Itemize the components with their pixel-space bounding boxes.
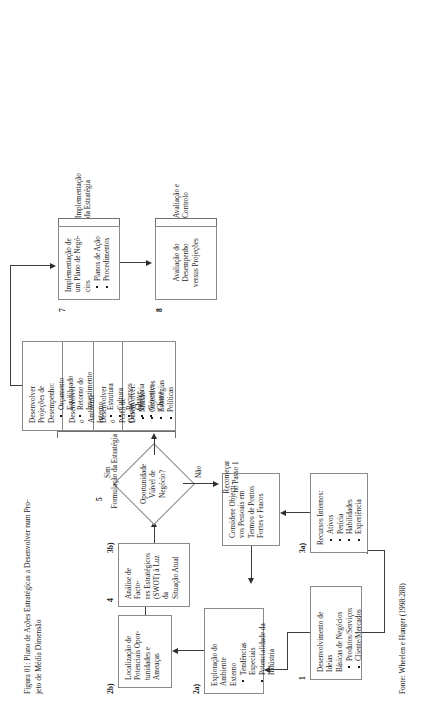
node-2a-bullet-2: Potencialidade da Indústria	[258, 615, 277, 675]
edge-6-to-7-v0	[10, 385, 22, 386]
arrowhead-7-to-8	[146, 260, 152, 266]
step-number-7: 7	[58, 308, 67, 312]
node-2a-title: Exploração do Ambiente Externo	[210, 615, 238, 686]
arrowhead-3b-to-4	[248, 578, 254, 584]
edge-4-to-5	[154, 527, 155, 543]
node-6-panel-4-title: Desenvolver Projeções de Desempenho:	[28, 381, 56, 423]
node-5-label: Oportunidade Viável de Negócio?	[139, 449, 167, 519]
edge-5-to-restart-v	[183, 483, 213, 484]
node-2a-bullet-1: Tendências Especiais	[239, 615, 258, 675]
node-1-bullet-1: Produtos/Serviços	[345, 593, 354, 661]
node-6-panel-1-bullet-4: Políticas	[166, 348, 175, 412]
node-4-title: Análise de Facto- res Estratégicos (SWOT…	[124, 550, 180, 599]
node-6-panel-3-bullet-1: Estrutura	[106, 383, 115, 410]
node-restart-step1: Recomeçar no Passo 1	[222, 446, 241, 508]
bracket-implementacao	[58, 218, 120, 226]
figure-source: Fonte: Wheelen e Hunger (1998:288)	[398, 583, 407, 694]
node-1-business-ideas: Desenvolvimento de Ideias Básicas de Neg…	[310, 586, 362, 680]
node-3a-bullet-4: Experiência	[354, 480, 363, 534]
node-8-performance-evaluation: Avaliação do Desempenho versus Projeções	[155, 226, 217, 300]
node-6-panel-4-bullet-1: Orçamento Equilibrado	[57, 372, 76, 410]
edge-n1-to-3a-v0	[362, 632, 384, 633]
node-3a-bullets: Ativos Perícia Habilidades Experiência	[326, 480, 363, 545]
edge-3b-to-4	[251, 546, 252, 578]
node-3a-internal-resources: Recursos Internos: Ativos Perícia Habili…	[310, 473, 368, 553]
node-8-title: Avaliação do Desempenho versus Projeções	[172, 233, 200, 292]
edge-7-to-8-v	[120, 262, 146, 263]
step-number-3b: 3b)	[106, 542, 115, 553]
node-3a-title: Recursos Internos:	[316, 480, 325, 545]
step-number-8: 8	[155, 308, 164, 312]
step-number-2b: 2b)	[106, 683, 115, 694]
edge-6-to-7-h	[10, 266, 11, 386]
arrowhead-3a-to-3b	[280, 510, 286, 516]
edge-2a-to-2b	[178, 650, 204, 651]
bracket-avaliacao	[155, 218, 217, 226]
edge-n1-to-2a-h	[287, 632, 288, 670]
node-2a-bullets: Tendências Especiais Potencialidade da I…	[239, 615, 276, 686]
node-6-panel-2-bullet-2: Gerentes Chave	[147, 384, 166, 410]
step-number-2a: 2a)	[192, 684, 201, 694]
bracket-label-formulacao: Formulação da Estratégia	[110, 434, 119, 516]
node-7-bullet-2: Procedimentos	[102, 233, 111, 281]
node-7-bullets: Planos de Ação Procedimentos	[93, 233, 112, 292]
edge-3a-to-3b	[286, 512, 310, 513]
node-3a-bullet-1: Ativos	[326, 480, 335, 534]
node-6-panel-3-bullet-3: Recursos Chave	[125, 383, 144, 410]
node-2a-external-environment: Exploração do Ambiente Externo Tendência…	[204, 608, 264, 694]
bracket-label-implementacao: Implementação da Estratégia	[74, 144, 92, 218]
node-6-panel-3-bullets: Estrutura Cultura Recursos Chave	[106, 383, 143, 423]
arrowhead-2a-to-2b	[172, 648, 178, 654]
step-number-4: 4	[106, 598, 115, 602]
figure-caption: Figura 01: Plano de Ações Estratégicas a…	[22, 449, 45, 694]
diagram-area: Figura 01: Plano de Ações Estratégicas a…	[0, 0, 424, 716]
node-1-title: Desenvolvimento de Ideias Básicas de Neg…	[316, 593, 344, 672]
figure-caption-line1: Figura 01: Plano de Ações Estratégicas a…	[23, 499, 32, 694]
node-7-bullet-1: Planos de Ação	[93, 233, 102, 281]
step-number-5: 5	[95, 497, 104, 501]
edge-5-to-6	[154, 439, 155, 455]
node-4-swot-analysis: Análise de Facto- res Estratégicos (SWOT…	[118, 543, 190, 607]
edge-n1-to-3a-h	[384, 551, 385, 633]
bracket-label-avaliacao: Avaliação e Controlo	[172, 144, 190, 218]
edge-n1-out-up	[287, 632, 310, 633]
node-6-panel-4-bullet-2: Retorno do Investimento	[76, 372, 95, 410]
figure-caption-line2: jeto de Média Dimensão	[34, 620, 43, 694]
step-number-1: 1	[298, 676, 307, 680]
node-3a-bullet-3: Habilidades	[345, 480, 354, 534]
node-3a-bullet-2: Perícia	[336, 480, 345, 534]
edge-6-to-7-v1	[10, 265, 50, 266]
step-number-3a: 3a)	[298, 543, 307, 553]
node-1-bullet-2: Cliente/Mercados	[354, 593, 363, 661]
node-7-business-plan-implementation: Implementação de um Plano de Negó- cios …	[58, 226, 120, 300]
edge-n1-to-3a-v1	[368, 550, 385, 551]
arrowhead-5-to-restart	[213, 481, 219, 487]
node-2b-opportunities-threats: Localização de Potenciais Opor- tunidade…	[118, 615, 172, 688]
edge-label-nao: Não	[195, 466, 204, 478]
node-2b-title: Localização de Potenciais Opor- tunidade…	[124, 622, 161, 680]
arrowhead-6-to-7	[50, 263, 56, 269]
node-6-panel-4-bullets: Orçamento Equilibrado Retorno do Investi…	[57, 372, 94, 423]
node-6-panel-3-bullet-2: Cultura	[116, 383, 125, 410]
node-6-panel-4-performance-projections: Desenvolver Projeções de Desempenho: Orç…	[22, 341, 63, 431]
node-1-bullets: Produtos/Serviços Cliente/Mercados	[345, 593, 364, 672]
node-7-title: Implementação de um Plano de Negó- cios	[64, 233, 92, 292]
figure-canvas: Figura 01: Plano de Ações Estratégicas a…	[0, 0, 424, 716]
